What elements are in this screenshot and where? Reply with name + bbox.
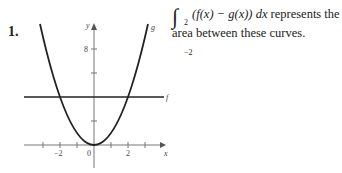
f-label: f xyxy=(166,93,170,102)
upper-limit: 2 xyxy=(184,14,188,31)
text-after: represents the xyxy=(271,7,340,21)
problem-text: ∫2−2(f(x) − g(x)) dx represents the area… xyxy=(172,6,342,42)
graph: y x g f 8 0 −2 2 xyxy=(0,0,172,173)
g-label: g xyxy=(151,23,155,32)
lower-limit: −2 xyxy=(184,44,193,61)
y-label: y xyxy=(85,21,90,30)
y-tick-8: 8 xyxy=(84,45,88,54)
text-line2: area between these curves. xyxy=(172,26,305,40)
x-tick-2: 2 xyxy=(126,149,130,158)
x-tick-neg2: −2 xyxy=(54,149,63,158)
origin-label: 0 xyxy=(87,149,91,158)
x-arrow-icon xyxy=(160,142,166,148)
x-label: x xyxy=(163,149,168,158)
y-arrow-icon xyxy=(91,23,97,30)
integrand: (f(x) − g(x)) dx xyxy=(192,7,267,21)
